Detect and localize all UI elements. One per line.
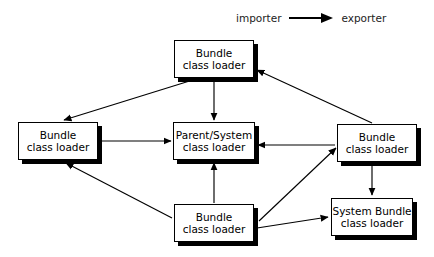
edge-right-bundle-to-top-bundle (257, 70, 372, 123)
node-right-bundle[interactable]: Bundleclass loader (337, 124, 417, 162)
node-label-line2: class loader (27, 141, 90, 153)
class-loader-diagram: importer exporter Bundleclass loaderBund… (0, 0, 434, 257)
node-label-line1: Bundle (196, 47, 233, 59)
node-label-line2: class loader (183, 59, 246, 71)
node-label-line1: Parent/System (176, 129, 252, 141)
node-system-bundle[interactable]: System Bundleclass loader (331, 198, 413, 236)
edge-top-bundle-to-left-bundle (64, 79, 196, 120)
node-label-line1: Bundle (359, 131, 396, 143)
legend: importer exporter (236, 12, 386, 24)
node-label-line1: Bundle (40, 129, 77, 141)
node-label-line2: class loader (346, 143, 409, 155)
node-parent-system[interactable]: Parent/Systemclass loader (173, 122, 255, 160)
node-bottom-bundle[interactable]: Bundleclass loader (174, 204, 254, 242)
node-label-line2: class loader (183, 223, 246, 235)
legend-exporter-label: exporter (341, 12, 386, 24)
edge-bottom-bundle-to-system-bundle (257, 217, 328, 228)
node-top-bundle[interactable]: Bundleclass loader (174, 40, 254, 78)
node-label-line1: System Bundle (332, 205, 411, 217)
arrow-right-icon (288, 12, 334, 24)
node-label-line2: class loader (183, 141, 246, 153)
legend-importer-label: importer (236, 12, 281, 24)
node-label-line1: Bundle (196, 211, 233, 223)
edge-bottom-bundle-to-left-bundle (66, 163, 172, 218)
node-label-line2: class loader (341, 217, 404, 229)
node-left-bundle[interactable]: Bundleclass loader (18, 122, 98, 160)
edge-bottom-bundle-to-right-bundle (259, 148, 336, 221)
